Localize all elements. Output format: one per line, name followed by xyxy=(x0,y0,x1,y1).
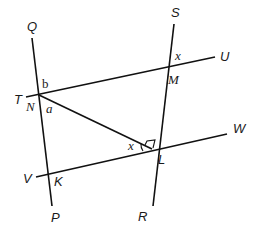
label-u: U xyxy=(220,49,230,64)
geometry-diagram: Q P S R T U V W N M K L b a x x xyxy=(0,0,259,235)
label-s: S xyxy=(171,5,180,20)
line-qp xyxy=(32,38,52,206)
angle-label-a: a xyxy=(46,101,53,116)
diagram-svg: Q P S R T U V W N M K L b a x x xyxy=(0,0,259,235)
label-n: N xyxy=(25,99,36,114)
segment-nl xyxy=(39,95,152,149)
label-q: Q xyxy=(27,19,37,34)
angle-label-x-m: x xyxy=(174,48,181,63)
label-l: L xyxy=(158,152,165,167)
label-w: W xyxy=(233,121,247,136)
angle-label-b: b xyxy=(42,76,49,91)
label-k: K xyxy=(54,174,64,189)
label-v: V xyxy=(23,171,33,186)
line-sr xyxy=(153,24,174,206)
label-t: T xyxy=(14,92,23,107)
label-r: R xyxy=(138,209,147,224)
label-p: P xyxy=(51,210,60,225)
label-m: M xyxy=(167,72,180,87)
line-tu xyxy=(26,57,215,97)
angle-label-x-l: x xyxy=(127,138,134,153)
